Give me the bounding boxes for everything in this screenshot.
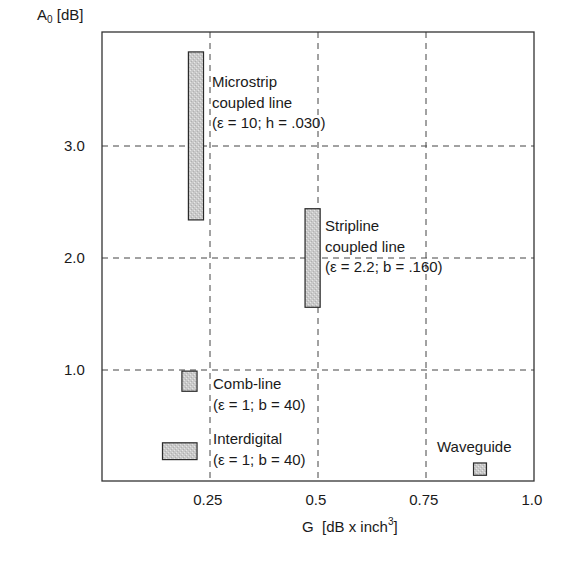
series-label-interdigital: Interdigital(ε = 1; b = 40) — [213, 429, 306, 470]
y-tick-label: 1.0 — [64, 361, 85, 378]
series-label-line: Comb-line — [213, 374, 306, 395]
range-bar-stripline-coupled-line — [305, 209, 320, 308]
series-label-line: (ε = 2.2; b = .160) — [325, 257, 443, 278]
x-tick-label: 0.75 — [409, 491, 438, 508]
series-label-line: coupled line — [212, 93, 325, 114]
x-tick-label: 0.25 — [193, 491, 222, 508]
series-label-line: Stripline — [325, 216, 443, 237]
series-label-comb-line: Comb-line(ε = 1; b = 40) — [213, 374, 306, 415]
series-label-microstrip-coupled-line: Microstripcoupled line(ε = 10; h = .030) — [212, 72, 325, 134]
x-axis-label: G [dB x inch3] — [302, 516, 398, 535]
series-label-line: Microstrip — [212, 72, 325, 93]
range-bar-comb-line — [182, 371, 197, 391]
series-label-waveguide: Waveguide — [437, 437, 512, 458]
range-bar-interdigital — [162, 443, 197, 460]
series-label-line: Interdigital — [213, 429, 306, 450]
range-bar-microstrip-coupled-line — [188, 52, 203, 220]
series-label-line: (ε = 1; b = 40) — [213, 395, 306, 416]
x-tick-label: 1.0 — [521, 491, 542, 508]
series-label-stripline-coupled-line: Striplinecoupled line(ε = 2.2; b = .160) — [325, 216, 443, 278]
series-label-line: (ε = 1; b = 40) — [213, 450, 306, 471]
y-tick-label: 3.0 — [64, 137, 85, 154]
series-label-line: (ε = 10; h = .030) — [212, 113, 325, 134]
y-axis-label: A0 [dB] — [37, 6, 83, 25]
series-label-line: coupled line — [325, 237, 443, 258]
y-tick-label: 2.0 — [64, 249, 85, 266]
series-label-line: Waveguide — [437, 437, 512, 458]
x-tick-label: 0.5 — [305, 491, 326, 508]
range-bar-waveguide — [474, 463, 487, 475]
